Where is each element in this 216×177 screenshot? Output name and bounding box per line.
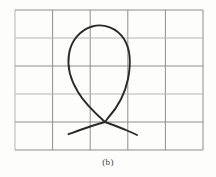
figure-canvas	[0, 0, 216, 177]
figure-caption: (b)	[0, 156, 216, 168]
caption-text: (b)	[102, 156, 113, 168]
figure-panel: (b)	[0, 0, 216, 177]
